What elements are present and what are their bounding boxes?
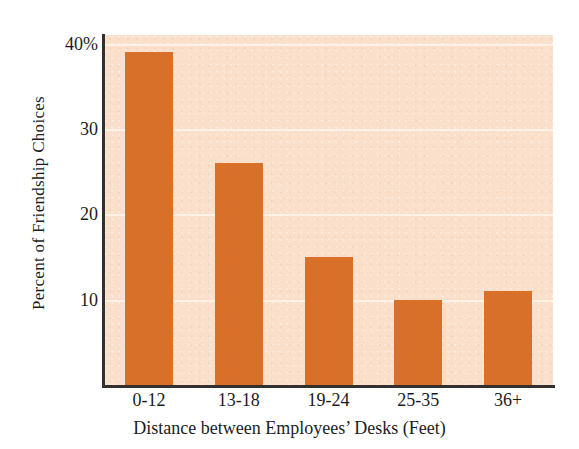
x-tick-label: 0-12 xyxy=(132,390,165,411)
bar xyxy=(215,163,263,385)
y-tick-label: 30 xyxy=(36,118,98,139)
bar xyxy=(305,257,353,385)
x-tick-label: 25-35 xyxy=(397,390,439,411)
bar xyxy=(125,52,173,385)
y-tick-label: 40% xyxy=(36,33,98,54)
bar xyxy=(484,291,532,385)
x-tick-label: 13-18 xyxy=(218,390,260,411)
x-tick-label: 36+ xyxy=(494,390,522,411)
gridline xyxy=(104,44,553,46)
x-axis-title: Distance between Employees’ Desks (Feet) xyxy=(0,418,579,439)
x-tick-label: 19-24 xyxy=(308,390,350,411)
y-axis-line xyxy=(102,34,105,387)
bar-chart-figure: Percent of Friendship Choices 10203040% … xyxy=(0,0,579,449)
x-axis-tick-labels: 0-1213-1819-2425-3536+ xyxy=(104,390,553,416)
y-tick-label: 20 xyxy=(36,204,98,225)
y-axis-tick-labels: 10203040% xyxy=(36,0,98,449)
y-tick-label: 10 xyxy=(36,289,98,310)
x-axis-line xyxy=(102,385,555,388)
plot-area xyxy=(104,35,553,385)
bar xyxy=(394,300,442,385)
